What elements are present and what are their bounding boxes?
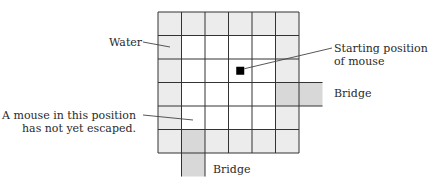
water-cell bbox=[205, 12, 229, 36]
mouse-marker bbox=[236, 67, 244, 75]
bridge-bottom bbox=[182, 153, 206, 177]
escape-label: A mouse in this position has not yet esc… bbox=[2, 109, 136, 135]
land-cell bbox=[229, 83, 253, 107]
land-cell bbox=[182, 59, 206, 83]
land-cell bbox=[205, 83, 229, 107]
starting-position-label: Starting position of mouse bbox=[334, 42, 428, 68]
water-cell bbox=[252, 12, 276, 36]
water-cell bbox=[158, 59, 182, 83]
bridge-right bbox=[299, 83, 323, 107]
water-cell bbox=[276, 36, 300, 60]
starting-position-label-line2: of mouse bbox=[334, 55, 428, 68]
water-cell bbox=[276, 130, 300, 154]
water-cell bbox=[158, 83, 182, 107]
water-cell bbox=[276, 83, 300, 107]
water-cell bbox=[276, 59, 300, 83]
land-cell bbox=[205, 36, 229, 60]
mouse-island-diagram: Water Starting position of mouse Bridge … bbox=[0, 0, 433, 187]
land-cell bbox=[182, 83, 206, 107]
land-cell bbox=[205, 59, 229, 83]
water-cell bbox=[158, 130, 182, 154]
water-cell bbox=[276, 106, 300, 130]
water-cell bbox=[229, 130, 253, 154]
water-cell bbox=[252, 130, 276, 154]
bridge-right-label: Bridge bbox=[334, 87, 371, 100]
water-cell bbox=[205, 130, 229, 154]
land-cell bbox=[182, 36, 206, 60]
starting-position-label-line1: Starting position bbox=[334, 42, 428, 55]
escape-label-line1: A mouse in this position bbox=[2, 109, 136, 122]
land-cell bbox=[252, 106, 276, 130]
land-cell bbox=[229, 36, 253, 60]
land-cell bbox=[182, 106, 206, 130]
land-cell bbox=[205, 106, 229, 130]
water-label: Water bbox=[109, 36, 142, 49]
water-cell bbox=[182, 130, 206, 154]
water-cell bbox=[158, 12, 182, 36]
escape-label-line2: has not yet escaped. bbox=[2, 122, 136, 135]
bridge-bottom-label: Bridge bbox=[213, 163, 250, 176]
land-cell bbox=[252, 36, 276, 60]
water-cell bbox=[182, 12, 206, 36]
land-cell bbox=[229, 106, 253, 130]
land-cell bbox=[252, 83, 276, 107]
water-cell bbox=[229, 12, 253, 36]
water-cell bbox=[276, 12, 300, 36]
